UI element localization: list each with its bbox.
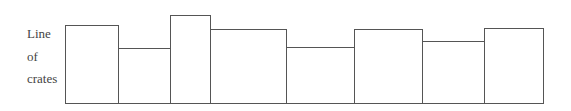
crate-2 (118, 48, 171, 104)
crate-6 (354, 29, 423, 104)
crate-1 (65, 25, 119, 104)
crate-7 (422, 41, 485, 104)
crate-8 (484, 28, 544, 104)
crate-4 (210, 29, 287, 104)
label-line-3: crates (27, 72, 57, 85)
crate-3 (170, 15, 211, 104)
label-line-1: Line (27, 27, 51, 40)
label-line-2: of (27, 50, 38, 63)
crate-5 (286, 47, 355, 104)
